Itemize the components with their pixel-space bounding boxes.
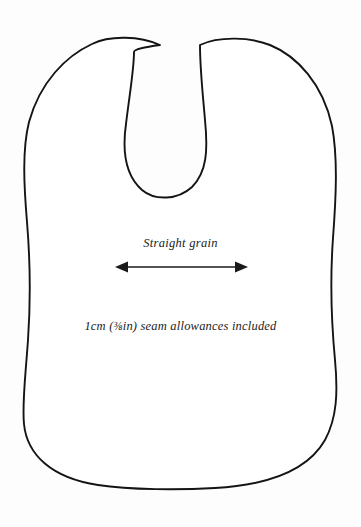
seam-note-suffix: ) seam allowances included <box>133 319 277 333</box>
pattern-sheet: Straight grain 1cm (⅜in) seam allowances… <box>0 0 361 527</box>
seam-note-fraction: ⅜ <box>114 319 123 333</box>
bib-outline-path <box>23 38 336 490</box>
pattern-diagram <box>0 0 361 527</box>
seam-allowance-note: 1cm (⅜in) seam allowances included <box>0 319 361 334</box>
seam-note-unit: in <box>123 319 133 333</box>
straight-grain-label: Straight grain <box>0 236 361 251</box>
seam-note-prefix: 1cm ( <box>84 319 113 333</box>
